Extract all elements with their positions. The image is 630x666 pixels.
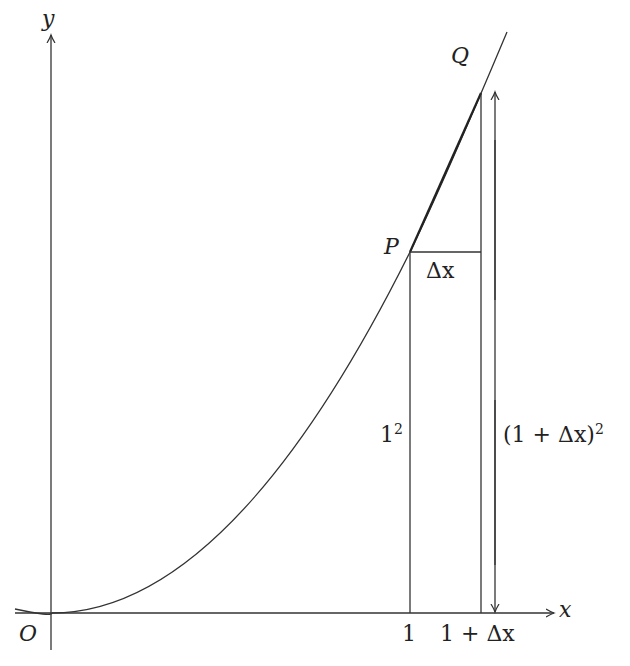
tick-label-1: 1 [402, 623, 416, 645]
height-p-exponent: 2 [394, 421, 403, 437]
diagram-canvas [0, 0, 630, 666]
point-p-label: P [384, 236, 399, 258]
point-q-label: Q [451, 45, 469, 67]
parabola-diagram: y x O P Q Δx 1 1 + Δx 12 (1 + Δx)2 [0, 0, 630, 666]
origin-label: O [19, 623, 37, 645]
height-q-exponent: 2 [595, 421, 604, 437]
height-q-label: (1 + Δx)2 [503, 424, 604, 446]
y-axis-label: y [42, 8, 54, 30]
tick-label-1-plus-dx: 1 + Δx [440, 623, 515, 645]
delta-x-label: Δx [426, 260, 454, 282]
secant-pq [410, 93, 481, 252]
height-p-label: 12 [380, 424, 403, 446]
parabola-curve [15, 32, 507, 614]
height-q-base: (1 + Δx) [503, 422, 595, 447]
x-axis-label: x [559, 599, 571, 621]
height-p-base: 1 [380, 422, 394, 447]
